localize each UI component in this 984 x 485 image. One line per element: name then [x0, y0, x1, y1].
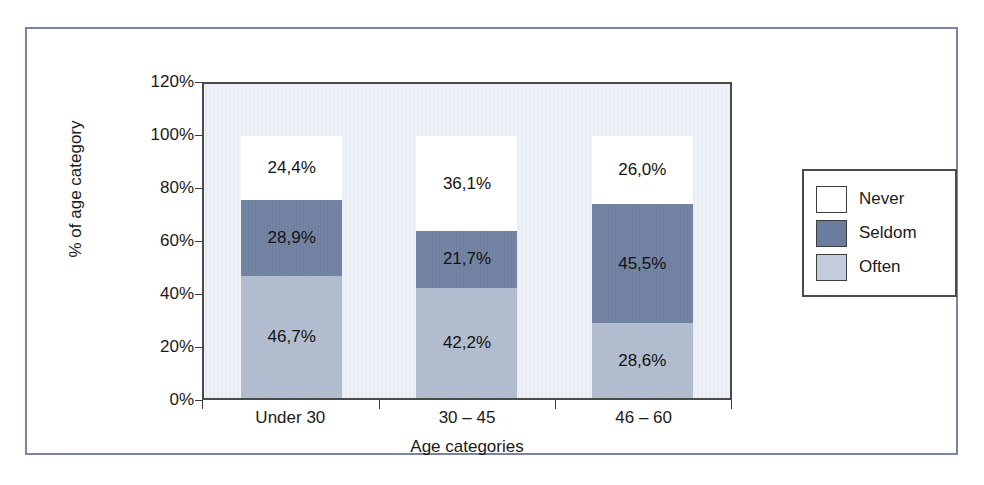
stacked-bar-30-45[interactable]: 36,1% 21,7% 42,2% [416, 136, 517, 398]
legend-label: Seldom [859, 223, 917, 243]
bar-segment-value: 21,7% [443, 249, 491, 269]
figure-frame: ed the Tactful Lie and the Seesaw on Mul… [25, 27, 958, 455]
chart-legend: Never Seldom Often [802, 169, 957, 297]
bar-segment-value: 36,1% [443, 174, 491, 194]
y-tick-label: 100% [104, 125, 194, 145]
y-tick-label: 20% [104, 337, 194, 357]
bar-segment-often[interactable]: 28,6% [592, 323, 693, 398]
y-tick-label: 80% [104, 178, 194, 198]
legend-item-often[interactable]: Often [816, 250, 945, 284]
x-category-label: 46 – 60 [555, 408, 732, 428]
bar-group-container: 24,4% 28,9% 46,7% 36,1% 21,7% 42,2% 26,0… [204, 84, 730, 398]
stacked-bar-under-30[interactable]: 24,4% 28,9% 46,7% [241, 136, 342, 398]
y-axis-title: % of age category [66, 74, 86, 304]
bar-segment-value: 42,2% [443, 333, 491, 353]
bar-segment-seldom[interactable]: 21,7% [416, 231, 517, 288]
bar-segment-never[interactable]: 36,1% [416, 136, 517, 230]
x-category-label: Under 30 [202, 408, 379, 428]
bar-segment-often[interactable]: 46,7% [241, 276, 342, 398]
legend-item-seldom[interactable]: Seldom [816, 216, 945, 250]
y-tick-label: 40% [104, 284, 194, 304]
y-tick-label: 0% [104, 390, 194, 410]
bar-segment-value: 24,4% [268, 158, 316, 178]
bar-segment-seldom[interactable]: 45,5% [592, 204, 693, 323]
x-category-label: 30 – 45 [379, 408, 556, 428]
x-axis-category-labels: Under 30 30 – 45 46 – 60 [202, 408, 732, 428]
legend-swatch-never [816, 186, 847, 213]
bar-slot: 24,4% 28,9% 46,7% [204, 84, 379, 398]
bar-segment-value: 46,7% [268, 327, 316, 347]
plot-area: 24,4% 28,9% 46,7% 36,1% 21,7% 42,2% 26,0… [202, 82, 732, 400]
bar-slot: 26,0% 45,5% 28,6% [555, 84, 730, 398]
y-axis-tick-labels: 120% 100% 80% 60% 40% 20% 0% [102, 29, 194, 453]
y-tick-label: 120% [104, 72, 194, 92]
bar-segment-value: 28,9% [268, 228, 316, 248]
bar-segment-seldom[interactable]: 28,9% [241, 200, 342, 276]
bar-segment-value: 26,0% [618, 160, 666, 180]
legend-item-never[interactable]: Never [816, 182, 945, 216]
x-axis-title: Age categories [202, 437, 732, 457]
bar-segment-value: 45,5% [618, 254, 666, 274]
bar-segment-never[interactable]: 24,4% [241, 136, 342, 200]
bar-segment-value: 28,6% [618, 351, 666, 371]
y-tick-label: 60% [104, 231, 194, 251]
bar-segment-often[interactable]: 42,2% [416, 288, 517, 398]
legend-label: Never [859, 189, 904, 209]
legend-swatch-often [816, 254, 847, 281]
legend-label: Often [859, 257, 901, 277]
bar-slot: 36,1% 21,7% 42,2% [379, 84, 554, 398]
legend-swatch-seldom [816, 220, 847, 247]
stacked-bar-46-60[interactable]: 26,0% 45,5% 28,6% [592, 136, 693, 398]
bar-segment-never[interactable]: 26,0% [592, 136, 693, 204]
